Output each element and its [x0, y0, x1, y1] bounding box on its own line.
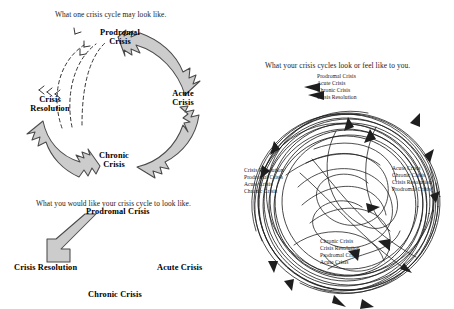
outer-arc: [248, 107, 446, 300]
panel-one-crisis-cycle: What one crisis cycle may look like.: [0, 0, 240, 190]
inner-tangle-curve: [298, 169, 392, 248]
chaos-label-line: Crisis Resolution: [317, 94, 357, 101]
chaos-label-cluster-left: Crisis Resolution Prodromal Crisis Acute…: [244, 167, 284, 196]
chaos-label-line: Acute Crisis: [320, 259, 360, 266]
arrowhead: [410, 113, 420, 127]
panel-three-caption: What your crisis cycles look or feel lik…: [265, 61, 410, 70]
arrowhead: [332, 295, 346, 307]
chaos-label-line: Prodromal Crisis: [392, 186, 432, 193]
stage-line-2: Crisis: [85, 38, 155, 47]
arrowhead: [366, 203, 380, 213]
stage-label-acute-desired: Acute Crisis: [157, 264, 202, 273]
panel-one-caption: What one crisis cycle may look like.: [55, 10, 166, 19]
stage-line-2: Crisis: [159, 99, 207, 108]
arrowhead: [400, 263, 412, 273]
panel-three-chaotic-cycles: What your crisis cycles look or feel lik…: [240, 55, 454, 309]
arrow-acute-to-chronic: [137, 106, 199, 178]
outer-arc: [248, 107, 444, 302]
stage-label-prodromal: Prodromal Crisis: [85, 29, 155, 47]
chaos-label-cluster-bottom: Chronic Crisis Crisis Resolution Prodrom…: [320, 238, 360, 267]
arrowhead: [378, 239, 390, 251]
stage-label-chronic-desired: Chronic Crisis: [88, 291, 142, 300]
inner-tangle-curve: [302, 186, 386, 215]
arrowhead: [344, 117, 354, 131]
stage-label-chronic: Chronic Crisis: [88, 152, 140, 170]
outer-arc: [257, 119, 432, 293]
chaos-label-line: Chronic Crisis: [392, 172, 432, 179]
arrowhead: [270, 141, 280, 155]
outer-arc: [254, 109, 443, 294]
inner-tangle-curve: [327, 131, 398, 228]
chaos-label-cluster-right: Acute Crisis Chronic Crisis Crisis Resol…: [392, 165, 432, 194]
stage-label-resolution-desired: Crisis Resolution: [14, 264, 77, 273]
chaos-label-line: Crisis Resolution: [392, 179, 432, 186]
chaos-label-line: Prodromal Crisis: [317, 73, 357, 80]
stage-label-crisis-resolution: Crisis Resolution: [14, 96, 86, 114]
chaos-label-line: Acute Crisis: [244, 181, 284, 188]
arrowhead: [424, 149, 434, 163]
stage-line-2: Crisis: [88, 161, 140, 170]
stage-label-prodromal-desired: Prodromal Crisis: [86, 208, 150, 217]
arrowhead: [268, 261, 278, 273]
dashed-return-loops: [57, 42, 106, 128]
outer-open-arc: [252, 114, 436, 294]
chaos-label-line: Crisis Resolution: [244, 167, 284, 174]
arrow-prodromal-to-resolution: [47, 214, 96, 262]
chaos-label-line: Acute Crisis: [392, 165, 432, 172]
chaos-label-line: Chronic Crisis: [244, 188, 284, 195]
chaos-label-line: Chronic Crisis: [320, 238, 360, 245]
inner-tangle-curve: [314, 143, 396, 181]
chaos-label-line: Chronic Crisis: [317, 87, 357, 94]
chaos-label-line: Prodromal Crisis: [320, 252, 360, 259]
chaos-label-line: Crisis Resolution: [320, 245, 360, 252]
inner-tangle-curve: [286, 154, 380, 175]
chaos-label-cluster-top: Prodromal Crisis Acute Crisis Chronic Cr…: [317, 73, 357, 102]
chaos-label-line: Prodromal Crisis: [244, 174, 284, 181]
arrowhead: [364, 129, 376, 143]
chaos-label-line: Acute Crisis: [317, 80, 357, 87]
dashed-arrowheads: [39, 28, 90, 98]
inner-tangle-curve: [306, 153, 388, 225]
outer-arc: [248, 109, 442, 302]
arrowhead: [284, 279, 294, 291]
panel-two-desired-cycle: What you would like your crisis cycle to…: [0, 190, 240, 309]
stage-line-2: Resolution: [14, 105, 86, 114]
stage-label-acute: Acute Crisis: [159, 90, 207, 108]
arrowhead-group: [260, 83, 440, 309]
inner-tangle-curve: [366, 127, 390, 231]
arrowhead: [360, 299, 374, 309]
